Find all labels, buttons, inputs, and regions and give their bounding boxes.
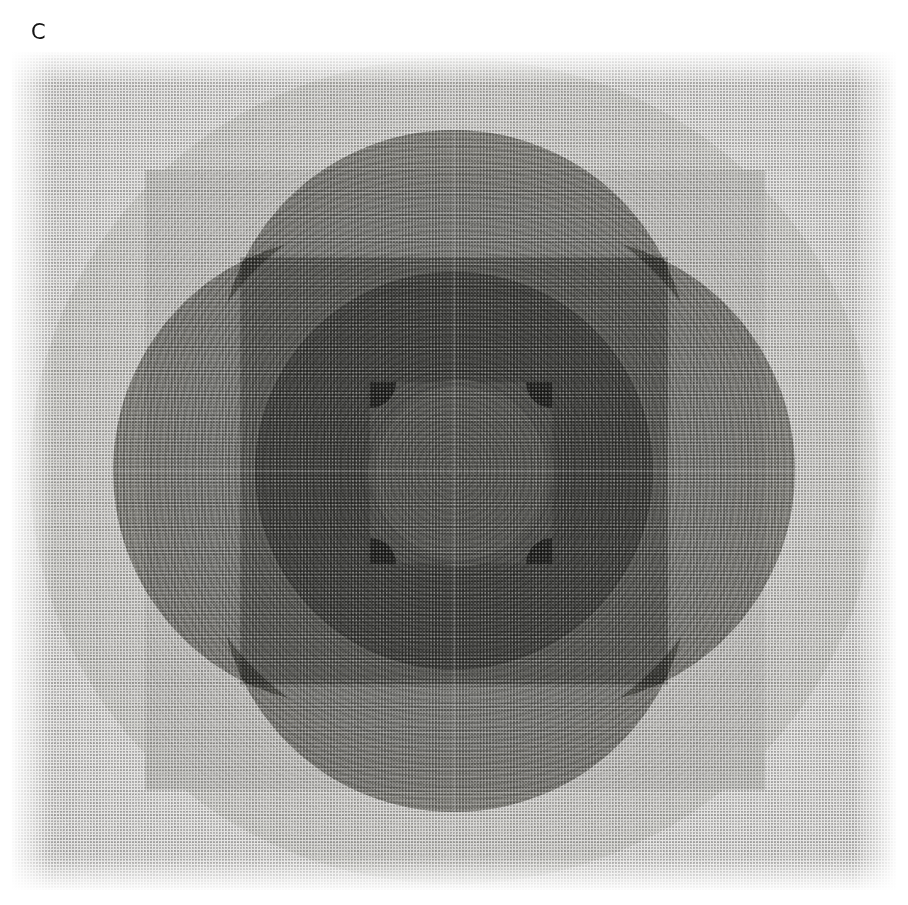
halftone-image-plate [12, 52, 896, 890]
corner-wedge-top-right-icon [526, 382, 552, 408]
figure-root: C [0, 0, 908, 905]
vertical-seam [453, 52, 455, 890]
outer-field-square-layer [12, 52, 896, 890]
rosette-lobe-right [325, 236, 795, 706]
corner-wedge-bottom-right-icon [526, 538, 552, 564]
concentric-ringing-texture [54, 70, 854, 870]
weave-texture [12, 52, 896, 890]
rosette-lobe-bottom [219, 342, 689, 812]
mid-light-square-layer [145, 170, 765, 790]
paper-grain-texture [12, 52, 896, 890]
inner-square-layer [240, 257, 668, 685]
rosette-lobe-left [113, 236, 583, 706]
core-disc-layer [172, 188, 736, 752]
central-square-layer [370, 382, 552, 564]
central-circle-layer [368, 380, 554, 566]
halftone-moire-screen [12, 52, 896, 890]
corner-wedge-bottom-left-icon [370, 538, 396, 564]
halftone-dot-screen [12, 52, 896, 890]
rosette-lobe-top [219, 130, 689, 600]
plate-vignette [12, 52, 896, 890]
central-inscribed-circle [374, 386, 548, 560]
panel-label: C [31, 22, 46, 43]
horizontal-seam [12, 470, 896, 472]
scanline-texture [12, 52, 896, 890]
inner-disc-layer [255, 272, 653, 670]
pale-outer-disc-layer [30, 58, 878, 884]
corner-wedge-top-left-icon [370, 382, 396, 408]
